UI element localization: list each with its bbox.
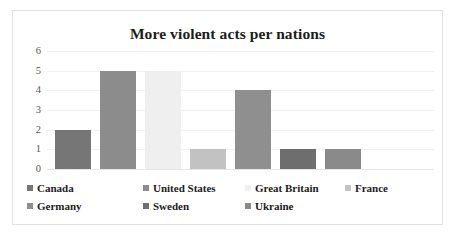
legend-item-great-britain[interactable]: Great Britain [245,182,319,194]
legend-label: Germany [37,200,82,212]
legend-item-germany[interactable]: Germany [27,200,82,212]
legend-label: Ukraine [255,200,294,212]
y-axis-tick-label: 3 [36,105,41,116]
legend-swatch-icon [143,203,149,209]
legend-swatch-icon [143,185,149,191]
chart-title: More violent acts per nations [13,25,442,43]
legend-item-sweden[interactable]: Sweden [143,200,189,212]
chart-legend: CanadaUnited StatesGreat BritainFranceGe… [27,179,427,215]
legend-item-canada[interactable]: Canada [27,182,74,194]
y-axis-tick-label: 1 [36,144,41,155]
bar-germany [235,90,271,169]
bar-ukraine [325,149,361,169]
y-axis-tick-label: 0 [36,164,41,175]
legend-label: France [355,182,388,194]
legend-item-ukraine[interactable]: Ukraine [245,200,294,212]
y-axis-tick-label: 6 [36,46,41,57]
x-axis-tick-label: 1 [37,131,442,141]
bar-sweden [280,149,316,169]
legend-label: Sweden [153,200,189,212]
legend-swatch-icon [27,203,33,209]
legend-swatch-icon [27,185,33,191]
legend-swatch-icon [245,185,251,191]
legend-item-united-states[interactable]: United States [143,182,216,194]
bar-series-layer [47,51,434,169]
y-axis: 6543210 [23,51,45,169]
legend-row: CanadaUnited StatesGreat BritainFrance [27,179,427,197]
legend-label: Great Britain [255,182,319,194]
bar-united-states [100,71,136,169]
chart-card: More violent acts per nations 6543210 1 … [12,10,443,225]
y-axis-tick-label: 5 [36,65,41,76]
legend-row: GermanySwedenUkraine [27,197,427,215]
bar-great-britain [145,71,181,169]
legend-swatch-icon [345,185,351,191]
legend-swatch-icon [245,203,251,209]
legend-label: United States [153,182,216,194]
axis-baseline [47,169,434,170]
legend-item-france[interactable]: France [345,182,388,194]
bar-france [190,149,226,169]
legend-label: Canada [37,182,74,194]
y-axis-tick-label: 4 [36,85,41,96]
plot-area: 6543210 [23,51,434,169]
